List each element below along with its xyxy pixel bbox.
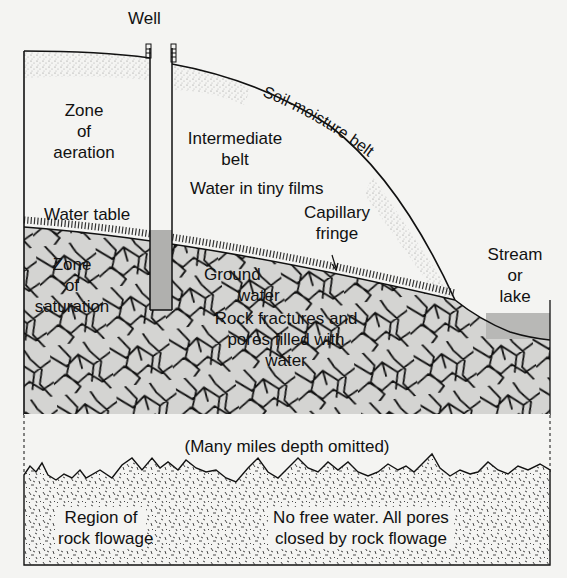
intermediate-belt-label: Intermediate belt — [180, 128, 290, 170]
zone-of-aeration-label: Zone of aeration — [42, 100, 126, 163]
water-in-tiny-films-label: Water in tiny films — [190, 178, 324, 199]
ground-water-label: Ground water — [204, 264, 280, 306]
depth-omitted-label: (Many miles depth omitted) — [24, 436, 550, 457]
rock-fractures-label: Rock fractures and pores filled with wat… — [210, 308, 362, 371]
water-table-label: Water table — [44, 204, 130, 225]
capillary-fringe-label: Capillary fringe — [290, 202, 384, 244]
no-free-water-label: No free water. All pores closed by rock … — [268, 507, 454, 549]
well-label: Well — [128, 8, 161, 29]
zone-of-saturation-label: Zone of saturation — [32, 254, 112, 317]
well-pipe — [146, 44, 176, 310]
stream-or-lake-label: Stream or lake — [480, 244, 550, 307]
region-of-rock-flowage-label: Region of rock flowage — [56, 507, 146, 549]
